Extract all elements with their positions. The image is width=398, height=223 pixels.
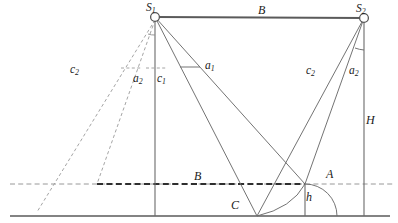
node-s2-label: S2 <box>356 3 366 16</box>
baseline-top-label: B <box>258 4 265 16</box>
a2-right-label-sub: 2 <box>355 69 359 78</box>
h-label-text: h <box>306 190 312 204</box>
ray-s1-to-a <box>155 17 305 184</box>
baseline-top-label-text: B <box>258 3 265 17</box>
c2-left-label-sub: 2 <box>75 68 79 77</box>
c2-right-label-sub: 2 <box>311 69 315 78</box>
point-a-label: A <box>326 168 333 180</box>
c2-right-label: c2 <box>306 65 315 78</box>
baseline-top-line <box>155 17 364 18</box>
diagram-canvas: B S1 S2 c2 a2 c1 a1 c2 a2 H B A C h <box>0 0 398 223</box>
node-s2-label-sub: 2 <box>362 7 366 16</box>
c2-left-label: c2 <box>70 64 79 77</box>
a2-left-label: a2 <box>133 73 143 86</box>
height-label: H <box>366 114 375 126</box>
ray-s2-to-c <box>257 18 364 216</box>
dashed-ray-s1-near <box>97 20 155 184</box>
a2-left-label-sub: 2 <box>139 77 143 86</box>
a2-right-label: a2 <box>349 65 359 78</box>
c1-label-sub: 1 <box>162 77 166 86</box>
h-label: h <box>306 191 312 203</box>
angle-arc-s1 <box>148 34 155 35</box>
c1-label: c1 <box>157 73 166 86</box>
node-s1-label: S1 <box>146 2 156 15</box>
node-s1-label-sub: 1 <box>152 6 156 15</box>
a1-label-sub: 1 <box>211 64 215 73</box>
height-label-text: H <box>366 113 375 127</box>
a1-label: a1 <box>205 60 215 73</box>
ray-s2-to-a <box>305 18 364 184</box>
point-c-label: C <box>231 199 239 211</box>
ray-s1-to-c <box>155 17 257 216</box>
point-c-label-text: C <box>231 198 239 212</box>
diagram-svg <box>0 0 398 223</box>
baseline-lower-label: B <box>194 170 201 182</box>
point-a-label-text: A <box>326 167 333 181</box>
angle-arc-c <box>257 184 305 216</box>
baseline-lower-label-text: B <box>194 169 201 183</box>
angle-arc-s2 <box>355 48 364 50</box>
